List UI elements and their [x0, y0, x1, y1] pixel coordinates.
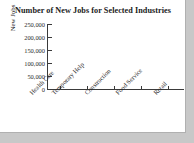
y-axis-tick-label: 100,000	[24, 60, 45, 67]
x-axis-tick	[168, 86, 169, 89]
y-axis-title: New Jobs	[9, 0, 17, 38]
y-axis-tick	[48, 63, 52, 64]
y-axis-tick	[48, 24, 52, 25]
chart-title: Number of New Jobs for Selected Industri…	[0, 6, 186, 16]
y-axis-tick-label: 150,000	[24, 47, 45, 54]
y-axis-tick	[48, 50, 52, 51]
chart-figure: Number of New Jobs for Selected Industri…	[0, 0, 186, 133]
y-axis-tick	[48, 37, 52, 38]
x-axis-tick	[141, 86, 142, 89]
y-axis-tick-label: 200,000	[24, 34, 45, 41]
y-axis-tick-label: 250,000	[24, 21, 45, 28]
